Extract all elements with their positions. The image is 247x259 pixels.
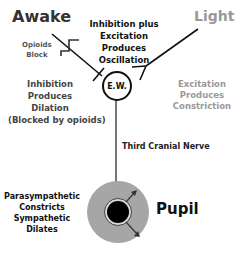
oscillation-note: Inhibition plus Excitation Produces Osci…	[86, 18, 162, 66]
opioids-line: Opioids	[22, 40, 52, 50]
opioids-block-label: Opioids Block	[22, 40, 52, 60]
light-excitation-fork-b	[140, 66, 146, 80]
light-label: Light	[194, 8, 234, 24]
note-line: Constricts	[4, 202, 80, 213]
note-line: Produces	[160, 90, 244, 101]
note-line: Excitation	[160, 79, 244, 90]
third-cranial-nerve-label: Third Cranial Nerve	[122, 142, 210, 151]
note-line: Inhibition plus	[86, 18, 162, 30]
note-line: Produces	[86, 42, 162, 54]
note-line: Excitation	[86, 30, 162, 42]
autonomic-note: Parasympathetic Constricts Sympathetic D…	[4, 191, 80, 235]
note-line: Dilation	[8, 102, 92, 114]
edinger-westphal-nucleus: E.W.	[102, 71, 132, 101]
awake-label: Awake	[12, 7, 71, 26]
awake-effect-note: Inhibition Produces Dilation (Blocked by…	[8, 78, 92, 126]
pupil-label: Pupil	[156, 200, 199, 218]
light-effect-note: Excitation Produces Constriction	[160, 79, 244, 112]
note-line: Oscillation	[86, 54, 162, 66]
note-line: Inhibition	[8, 78, 92, 90]
block-line: Block	[22, 50, 52, 60]
note-line: Sympathetic	[4, 213, 80, 224]
note-line: Constriction	[160, 101, 244, 112]
light-excitation-fork-a	[132, 66, 146, 67]
note-line: Dilates	[4, 224, 80, 235]
note-line: Produces	[8, 90, 92, 102]
note-line: (Blocked by opioids)	[8, 114, 92, 126]
pupil	[107, 201, 129, 223]
note-line: Parasympathetic	[4, 191, 80, 202]
